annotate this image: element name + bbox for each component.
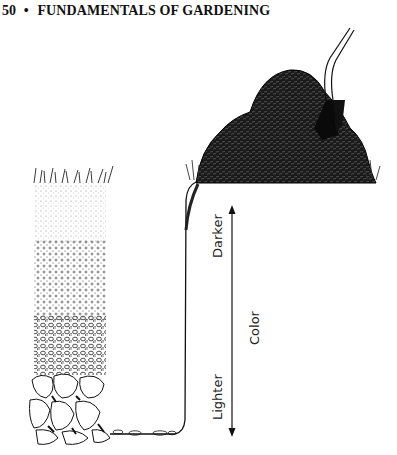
color-axis-arrow [229,205,236,437]
profile-outline [110,182,196,434]
label-color: Color [247,311,262,345]
label-lighter: Lighter [210,374,225,420]
label-darker: Darker [210,214,225,258]
soil-pile [186,70,380,183]
soil-profile-illustration [0,0,397,455]
soil-column [30,166,177,444]
